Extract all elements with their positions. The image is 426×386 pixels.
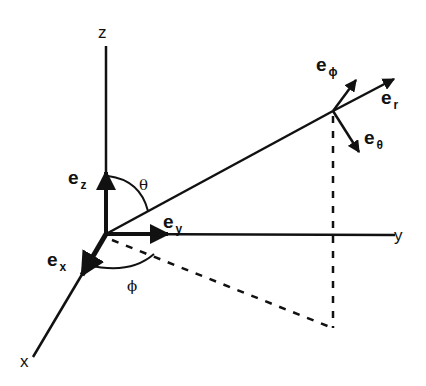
etheta-vector xyxy=(333,111,359,152)
ex-label: ex xyxy=(47,250,66,273)
ex-vector xyxy=(82,234,106,275)
radius-line xyxy=(106,111,333,234)
ey-label: ey xyxy=(163,212,182,235)
x-axis-label: x xyxy=(20,353,29,370)
ez-label: ez xyxy=(68,168,87,191)
theta-label: θ xyxy=(139,178,148,193)
spherical-coordinates-diagram xyxy=(0,0,426,386)
etheta-label: eθ xyxy=(364,128,383,151)
er-label: er xyxy=(381,88,398,111)
phi-arc xyxy=(88,254,154,268)
ephi-label: eϕ xyxy=(316,55,338,78)
z-axis-label: z xyxy=(98,24,107,41)
xy-plane-projection-dashed xyxy=(112,240,330,327)
y-axis-label: y xyxy=(394,227,403,244)
phi-label: ϕ xyxy=(127,279,137,294)
